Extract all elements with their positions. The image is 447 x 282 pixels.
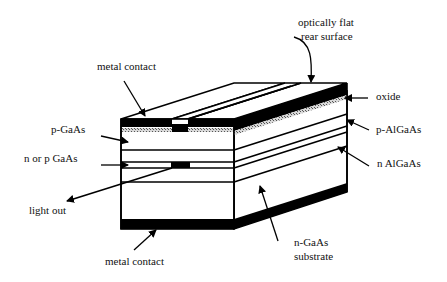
label-oxide: oxide	[376, 90, 400, 103]
arrow-metal-contact-bottom	[134, 230, 156, 250]
oxide-right	[188, 128, 233, 132]
label-optically-flat: optically flat	[298, 16, 354, 29]
label-metal-contact-bottom: metal contact	[105, 255, 164, 268]
label-p-gaas: p-GaAs	[51, 123, 85, 136]
front-face	[121, 119, 234, 229]
label-light-out: light out	[29, 204, 66, 217]
top-metal-center	[172, 124, 188, 132]
bottom-metal-front	[121, 219, 234, 229]
label-p-algaas: p-AlGaAs	[376, 123, 421, 136]
oxide-left	[122, 128, 172, 132]
arrow-metal-contact-top	[124, 81, 145, 116]
top-metal-right	[188, 119, 234, 127]
laser-structure-diagram	[0, 0, 447, 282]
label-rear-surface: rear surface	[301, 30, 353, 43]
device-block	[121, 83, 347, 229]
arrow-optically-flat	[294, 37, 311, 82]
top-metal-left	[121, 119, 172, 127]
arrow-p-algaas	[347, 120, 369, 130]
label-n-algaas: n AlGaAs	[377, 157, 421, 170]
label-substrate: substrate	[294, 250, 333, 263]
label-n-gaas: n-GaAs	[294, 236, 328, 249]
active-region	[171, 162, 190, 168]
label-n-or-p-gaas: n or p GaAs	[24, 152, 77, 165]
label-metal-contact-top: metal contact	[97, 60, 156, 73]
